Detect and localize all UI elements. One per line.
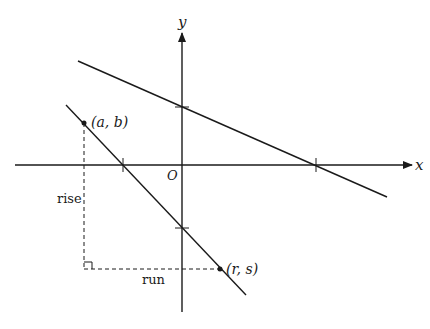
y-axis-label: y (177, 13, 187, 31)
point-r-s-dot (218, 267, 223, 272)
point-a-b-label: (a, b) (91, 114, 128, 130)
lower-line (66, 105, 246, 295)
point-r-s-label: (r, s) (226, 261, 258, 277)
right-angle-marker (84, 262, 92, 269)
rise-label: rise (57, 191, 82, 206)
point-a-b-dot (82, 121, 87, 126)
coordinate-diagram: y x O (a, b) (r, s) rise run (0, 0, 430, 329)
x-axis-label: x (415, 156, 424, 174)
run-label: run (142, 272, 166, 287)
origin-label: O (167, 168, 178, 183)
